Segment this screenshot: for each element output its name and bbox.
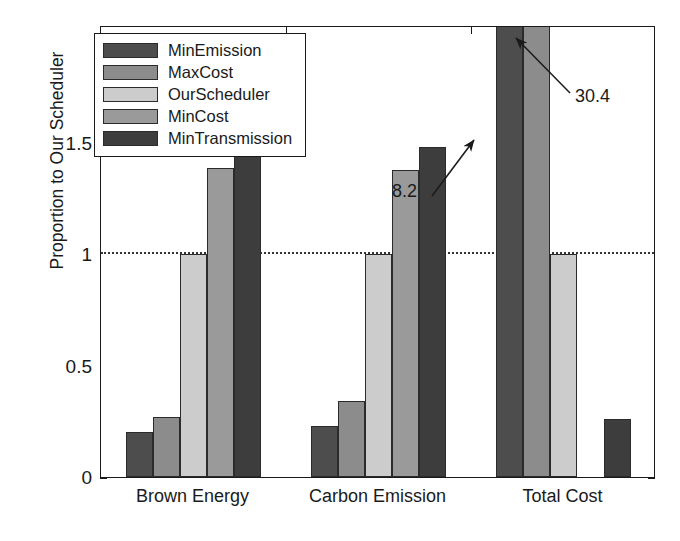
legend-label: MaxCost bbox=[168, 64, 233, 81]
legend-item-mintransmission[interactable]: MinTransmission bbox=[103, 127, 305, 149]
legend-item-ourscheduler[interactable]: OurScheduler bbox=[103, 83, 305, 105]
bar-ourscheduler-carbon-emission bbox=[365, 254, 392, 477]
bar-maxcost-total-cost bbox=[523, 26, 550, 477]
x-tick-label-carbon-emission: Carbon Emission bbox=[309, 486, 446, 507]
bar-ourscheduler-total-cost bbox=[550, 254, 577, 477]
legend-label: MinEmission bbox=[168, 42, 262, 59]
x-tick-label-total-cost: Total Cost bbox=[522, 486, 602, 507]
y-tick-label: 1.5 bbox=[66, 134, 92, 153]
figure: Proportion to Our Scheduler 00.511.5 Bro… bbox=[0, 0, 680, 541]
y-tick-label: 0 bbox=[81, 468, 92, 487]
legend-swatch-minemission bbox=[103, 43, 158, 58]
annotation-label-8-2: 8.2 bbox=[392, 181, 417, 202]
annotation-label-30-4: 30.4 bbox=[575, 86, 610, 107]
bar-minemission-carbon-emission bbox=[311, 426, 338, 477]
legend-swatch-maxcost bbox=[103, 65, 158, 80]
legend: MinEmissionMaxCostOurSchedulerMinCostMin… bbox=[94, 33, 306, 157]
bar-maxcost-carbon-emission bbox=[338, 401, 365, 477]
legend-swatch-ourscheduler bbox=[103, 87, 158, 102]
bar-minemission-total-cost bbox=[496, 26, 523, 477]
legend-label: MinTransmission bbox=[168, 130, 292, 147]
y-tick-label: 0.5 bbox=[66, 357, 92, 376]
y-tick-mark bbox=[100, 478, 107, 479]
bar-mincost-brown-energy bbox=[207, 168, 234, 477]
bar-ourscheduler-brown-energy bbox=[180, 254, 207, 477]
x-tick-label-brown-energy: Brown Energy bbox=[136, 486, 249, 507]
legend-swatch-mintransmission bbox=[103, 131, 158, 146]
bar-mincost-carbon-emission bbox=[392, 170, 419, 477]
y-tick-label: 1 bbox=[81, 245, 92, 264]
legend-label: MinCost bbox=[168, 108, 229, 125]
y-tick-mark-right bbox=[648, 478, 655, 479]
y-axis-label: Proportion to Our Scheduler bbox=[47, 31, 68, 291]
x-tick-mark-top bbox=[471, 27, 472, 34]
bar-mintransmission-carbon-emission bbox=[419, 147, 446, 477]
bar-mintransmission-total-cost bbox=[604, 419, 631, 477]
bar-mintransmission-brown-energy bbox=[234, 145, 261, 477]
legend-item-minemission[interactable]: MinEmission bbox=[103, 39, 305, 61]
legend-label: OurScheduler bbox=[168, 86, 270, 103]
bar-maxcost-brown-energy bbox=[153, 417, 180, 477]
bar-minemission-brown-energy bbox=[126, 432, 153, 477]
legend-item-mincost[interactable]: MinCost bbox=[103, 105, 305, 127]
legend-item-maxcost[interactable]: MaxCost bbox=[103, 61, 305, 83]
legend-swatch-mincost bbox=[103, 109, 158, 124]
